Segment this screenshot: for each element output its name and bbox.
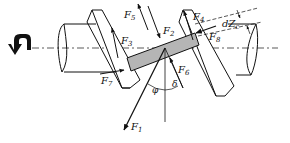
shaft-right [228,24,258,75]
label-f2: F2 [162,25,175,38]
label-f7: F7 [100,75,113,88]
label-f6: F6 [177,64,190,77]
thread-force-diagram: F1 F2 F3 F4 F5 F6 F7 F8 dZc φ δ [0,0,290,143]
label-f5: F5 [123,9,136,22]
label-delta: δ [172,79,177,89]
force-arrow-f5 [138,4,148,30]
label-f1: F1 [130,121,142,134]
label-phi: φ [152,85,159,95]
rotation-arrow-icon [8,34,31,55]
force-arrow-f2 [148,6,160,38]
